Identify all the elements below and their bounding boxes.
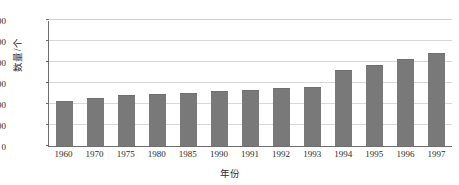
bar-slot	[359, 21, 390, 146]
bar	[118, 95, 135, 146]
bar	[397, 59, 414, 146]
x-axis-tick-label: 1985	[172, 149, 203, 159]
y-axis-tick-label: 600	[0, 80, 6, 89]
bar-slot	[390, 21, 421, 146]
bar	[242, 90, 259, 146]
x-axis-tick-label: 1990	[203, 149, 234, 159]
bar-slot	[421, 21, 452, 146]
y-axis-tick-label: 400	[0, 101, 6, 110]
bar-slot	[111, 21, 142, 146]
x-axis-tick-label: 1992	[266, 149, 297, 159]
y-axis-tick-label: 800	[0, 59, 6, 68]
bar	[180, 93, 197, 147]
y-axis-tick-mark	[46, 103, 50, 104]
bar	[149, 94, 166, 146]
bar-slot	[266, 21, 297, 146]
x-axis-tick-label: 1970	[79, 149, 110, 159]
y-axis-tick-label: 1 000	[0, 38, 6, 47]
bar-slot	[328, 21, 359, 146]
bar	[211, 91, 228, 146]
bar-slot	[142, 21, 173, 146]
y-axis-tick-mark	[46, 19, 50, 20]
plot-area	[48, 21, 452, 147]
bar-chart-figure: 数量/个 02004006008001 0001 200 19601970197…	[0, 0, 459, 185]
x-axis-tick-label: 1994	[328, 149, 359, 159]
y-axis-tick-mark	[46, 124, 50, 125]
x-axis-tick-label: 1995	[359, 149, 390, 159]
y-axis-tick-label: 200	[0, 122, 6, 131]
x-axis-tick-label: 1975	[110, 149, 141, 159]
y-axis-tick-mark	[46, 61, 50, 62]
x-axis-tick-labels: 1960197019751980198519901991199219931994…	[48, 149, 452, 159]
x-axis-tick-label: 1997	[421, 149, 452, 159]
y-axis-tick-label: 1 200	[0, 17, 6, 26]
bar-slot	[173, 21, 204, 146]
x-axis-tick-label: 1996	[390, 149, 421, 159]
bar-slot	[204, 21, 235, 146]
x-axis-tick-label: 1980	[141, 149, 172, 159]
bar-slot	[297, 21, 328, 146]
bar-series	[49, 21, 452, 146]
bar	[304, 87, 321, 146]
y-axis-tick-mark	[46, 82, 50, 83]
x-axis-tick-label: 1993	[297, 149, 328, 159]
y-axis-tick-mark	[46, 145, 50, 146]
y-axis-tick-label: 0	[0, 143, 6, 152]
x-axis-tick-label: 1960	[48, 149, 79, 159]
x-axis-title: 年份	[0, 166, 459, 180]
bar	[273, 88, 290, 146]
bar-slot	[235, 21, 266, 146]
bar	[56, 101, 73, 146]
y-axis-title: 数量/个	[10, 20, 24, 90]
bar-slot	[49, 21, 80, 146]
bar	[366, 65, 383, 146]
y-axis-tick-mark	[46, 40, 50, 41]
bar	[428, 53, 445, 146]
gridline	[49, 19, 452, 20]
bar	[87, 98, 104, 146]
bar-slot	[80, 21, 111, 146]
bar	[335, 70, 352, 146]
x-axis-tick-label: 1991	[234, 149, 265, 159]
